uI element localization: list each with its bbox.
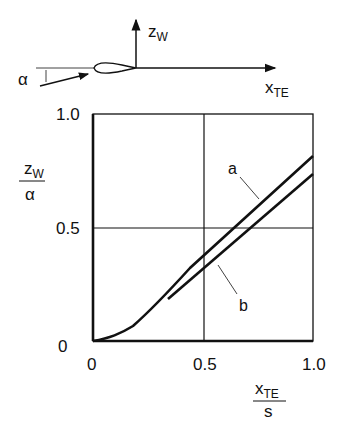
curve-b xyxy=(168,174,313,299)
curve-b-label: b xyxy=(239,297,248,314)
plot-area: a b 1.0 0.5 0 0 0.5 1.0 zW α xTE s xyxy=(19,105,326,421)
alpha-label: α xyxy=(18,70,28,89)
figure: α zW xTE a b 1.0 0.5 0 0 0.5 1.0 zW α xyxy=(0,0,345,432)
svg-text:s: s xyxy=(264,402,273,421)
y-tick-1: 1.0 xyxy=(56,105,80,124)
x-tick-0: 0 xyxy=(87,355,96,374)
curve-a xyxy=(93,156,313,341)
z-w-label: zW xyxy=(148,22,169,44)
svg-text:zW: zW xyxy=(24,159,45,181)
x-tick-1: 1.0 xyxy=(302,355,326,374)
y-axis-label: zW α xyxy=(19,159,45,204)
y-tick-0: 0 xyxy=(58,337,67,356)
schematic: α zW xTE xyxy=(18,20,289,100)
leader-a xyxy=(240,177,259,199)
curve-a-label: a xyxy=(228,160,237,177)
x-tick-05: 0.5 xyxy=(193,355,217,374)
airfoil-shape xyxy=(94,63,136,73)
freestream-arrow xyxy=(40,74,88,86)
x-te-label: xTE xyxy=(265,78,289,100)
svg-text:α: α xyxy=(25,185,35,204)
y-tick-05: 0.5 xyxy=(56,219,80,238)
svg-text:xTE: xTE xyxy=(255,379,279,401)
x-axis-label: xTE s xyxy=(253,379,286,421)
leader-b xyxy=(218,265,237,294)
